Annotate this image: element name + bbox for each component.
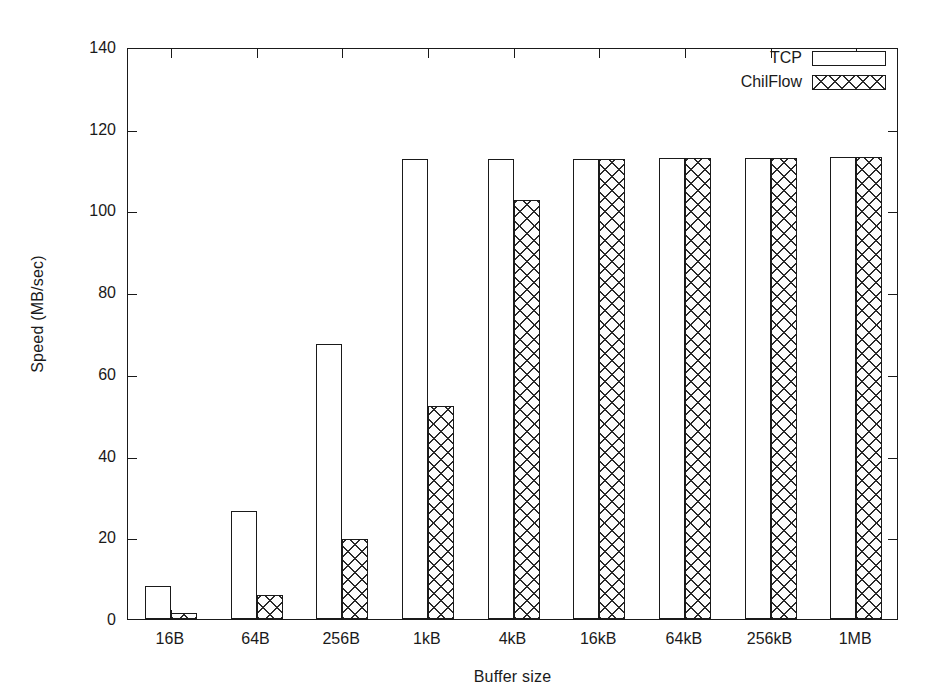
y-axis-tick-label: 120: [56, 122, 116, 138]
y-axis-tick-label: 100: [56, 203, 116, 219]
legend-item-tcp: TCP: [712, 47, 886, 69]
legend-swatch-chilflow: [812, 75, 886, 90]
y-axis-tick-label: 20: [56, 530, 116, 546]
y-axis-tick-label: 40: [56, 449, 116, 465]
y-axis-tick-label: 140: [56, 40, 116, 56]
x-axis-title: Buffer size: [127, 668, 898, 686]
chart-legend: TCPChilFlow: [712, 41, 890, 101]
chart-figure: Speed (MB/sec) 020406080100120140 16B64B…: [0, 0, 942, 698]
y-axis-title: Speed (MB/sec): [29, 214, 47, 414]
legend-swatch-tcp: [812, 51, 886, 66]
y-axis-tick-labels: 020406080100120140: [50, 0, 116, 698]
legend-label: ChilFlow: [741, 74, 802, 90]
legend-item-chilflow: ChilFlow: [712, 71, 886, 93]
x-axis-tick-label: 1MB: [795, 630, 915, 648]
y-axis-tick-label: 80: [56, 285, 116, 301]
legend-label: TCP: [770, 50, 802, 66]
y-axis-tick-label: 0: [56, 612, 116, 628]
y-axis-tick-label: 60: [56, 367, 116, 383]
x-axis-tick-labels: 16B64B256B1kB4kB16kB64kB256kB1MB: [127, 0, 898, 698]
